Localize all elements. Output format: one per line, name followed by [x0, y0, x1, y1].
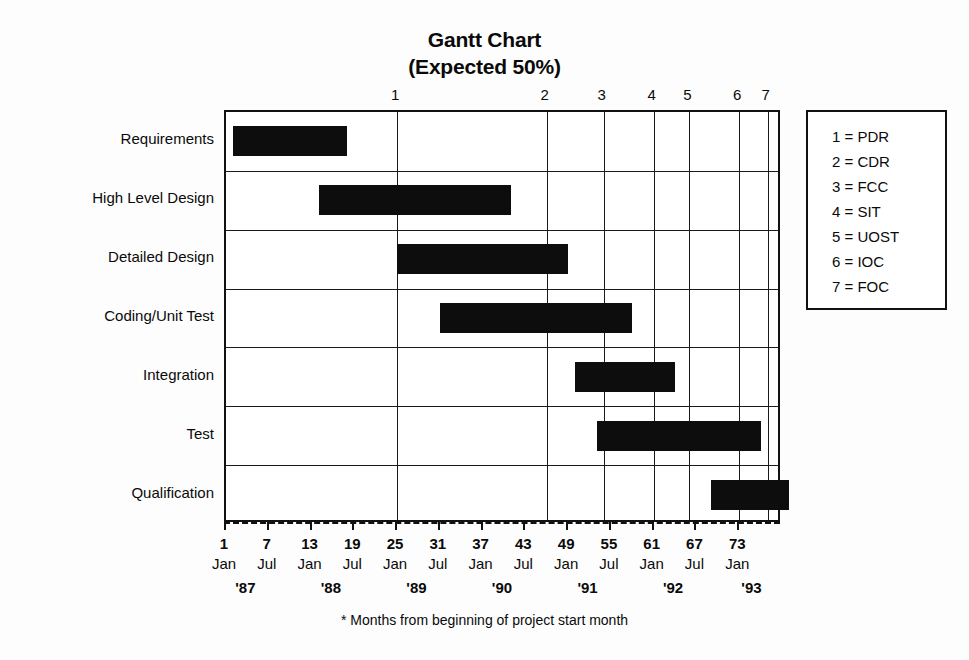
axis-year-label: '90	[479, 578, 525, 598]
task-label: High Level Design	[8, 189, 214, 207]
axis-tick-month-number: 19	[330, 534, 374, 554]
milestone-line-1	[397, 112, 398, 520]
milestone-line-6	[739, 112, 740, 520]
axis-tick	[395, 522, 397, 530]
axis-tick-month-name: Jul	[245, 554, 289, 574]
axis-tick-label: 19Jul	[330, 534, 374, 574]
milestone-number-7: 7	[756, 86, 776, 104]
axis-tick	[609, 522, 611, 530]
row-separator	[226, 230, 778, 231]
axis-tick-month-name: Jul	[587, 554, 631, 574]
milestone-number-4: 4	[642, 86, 662, 104]
axis-year-label: '93	[728, 578, 774, 598]
gantt-bar	[575, 362, 675, 392]
task-label-column: RequirementsHigh Level DesignDetailed De…	[0, 110, 214, 522]
axis-tick-month-name: Jan	[373, 554, 417, 574]
axis-tick-label: 61Jan	[630, 534, 674, 574]
axis-tick	[566, 522, 568, 530]
page-title: Gantt Chart (Expected 50%)	[0, 26, 969, 80]
milestone-number-row: 1234567	[0, 86, 969, 108]
axis-tick-month-name: Jan	[202, 554, 246, 574]
axis-year-label: '88	[308, 578, 354, 598]
axis-tick	[481, 522, 483, 530]
axis-year-label: '91	[565, 578, 611, 598]
axis-tick-month-name: Jan	[544, 554, 588, 574]
legend-item-4: 4 = SIT	[832, 199, 945, 224]
task-label: Requirements	[8, 130, 214, 148]
axis-tick-month-number: 1	[202, 534, 246, 554]
axis-tick-month-number: 61	[630, 534, 674, 554]
axis-tick-marks	[224, 522, 780, 532]
axis-tick-month-number: 31	[416, 534, 460, 554]
legend-item-7: 7 = FOC	[832, 274, 945, 299]
row-separator	[226, 465, 778, 466]
axis-tick-month-name: Jul	[416, 554, 460, 574]
milestone-number-3: 3	[592, 86, 612, 104]
axis-year-label: '87	[222, 578, 268, 598]
axis-tick-month-number: 55	[587, 534, 631, 554]
axis-tick	[310, 522, 312, 530]
axis-tick	[694, 522, 696, 530]
row-separator	[226, 347, 778, 348]
footnote: * Months from beginning of project start…	[0, 610, 969, 630]
axis-tick-month-name: Jan	[459, 554, 503, 574]
axis-tick-month-number: 25	[373, 534, 417, 554]
task-label: Detailed Design	[8, 248, 214, 266]
axis-tick-label: 13Jan	[288, 534, 332, 574]
axis-tick-month-name: Jul	[672, 554, 716, 574]
axis-tick-label: 67Jul	[672, 534, 716, 574]
legend-box: 1 = PDR2 = CDR3 = FCC4 = SIT5 = UOST6 = …	[806, 110, 947, 310]
axis-tick-month-number: 43	[501, 534, 545, 554]
axis-tick-month-number: 67	[672, 534, 716, 554]
axis-tick-label: 31Jul	[416, 534, 460, 574]
gantt-bar	[319, 185, 511, 215]
milestone-line-7	[768, 112, 769, 520]
axis-tick-label: 25Jan	[373, 534, 417, 574]
row-separator	[226, 406, 778, 407]
axis-tick-month-number: 49	[544, 534, 588, 554]
axis-tick	[352, 522, 354, 530]
axis-tick-month-number: 37	[459, 534, 503, 554]
gantt-bar	[711, 480, 789, 510]
gantt-plot-area	[224, 110, 780, 522]
axis-tick-month-name: Jan	[630, 554, 674, 574]
milestone-line-5	[689, 112, 690, 520]
legend-item-2: 2 = CDR	[832, 149, 945, 174]
gantt-bar	[597, 421, 761, 451]
task-label: Coding/Unit Test	[8, 307, 214, 325]
axis-tick-label: 1Jan	[202, 534, 246, 574]
axis-tick-label: 43Jul	[501, 534, 545, 574]
axis-tick-month-number: 13	[288, 534, 332, 554]
axis-tick-label: 49Jan	[544, 534, 588, 574]
gantt-bar	[233, 126, 347, 156]
legend-item-3: 3 = FCC	[832, 174, 945, 199]
axis-tick-labels: 1Jan7Jul13Jan19Jul25Jan31Jul37Jan43Jul49…	[0, 534, 969, 576]
task-label: Test	[8, 425, 214, 443]
row-separator	[226, 289, 778, 290]
axis-tick	[224, 522, 226, 530]
milestone-number-2: 2	[535, 86, 555, 104]
axis-tick	[523, 522, 525, 530]
legend-item-5: 5 = UOST	[832, 224, 945, 249]
milestone-number-1: 1	[385, 86, 405, 104]
axis-tick-month-number: 7	[245, 534, 289, 554]
row-separator	[226, 171, 778, 172]
axis-tick	[652, 522, 654, 530]
axis-year-label: '92	[650, 578, 696, 598]
title-line-2: (Expected 50%)	[0, 53, 969, 80]
axis-tick-month-name: Jan	[288, 554, 332, 574]
gantt-bar	[440, 303, 632, 333]
axis-tick-label: 7Jul	[245, 534, 289, 574]
axis-tick	[267, 522, 269, 530]
axis-tick-label: 37Jan	[459, 534, 503, 574]
milestone-line-4	[654, 112, 655, 520]
axis-tick-month-name: Jul	[330, 554, 374, 574]
axis-year-label: '89	[393, 578, 439, 598]
axis-tick-label: 73Jan	[715, 534, 759, 574]
axis-tick	[737, 522, 739, 530]
task-label: Integration	[8, 366, 214, 384]
legend-item-6: 6 = IOC	[832, 249, 945, 274]
axis-tick-month-name: Jul	[501, 554, 545, 574]
gantt-bar	[397, 244, 568, 274]
axis-year-labels: '87'88'89'90'91'92'93	[0, 578, 969, 602]
